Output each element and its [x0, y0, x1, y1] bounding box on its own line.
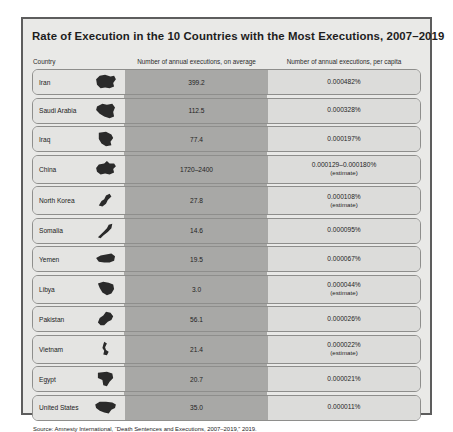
per-capita-estimate-note: (estimate): [330, 289, 358, 297]
cell-country: Libya: [33, 276, 125, 303]
cell-per-capita: 0.000011%: [268, 396, 420, 420]
table-row: Egypt20.70.000021%: [32, 366, 421, 392]
cell-per-capita: 0.000328%: [268, 99, 420, 123]
per-capita-value: 0.000067%: [327, 255, 360, 263]
average-executions-value: 112.5: [188, 107, 204, 114]
cell-average-executions: 112.5: [125, 99, 268, 123]
cell-average-executions: 77.4: [125, 127, 268, 151]
cell-country: North Korea: [33, 187, 125, 214]
table-row: Iraq77.40.000197%: [32, 126, 421, 152]
cell-average-executions: 399.2: [125, 70, 268, 94]
cell-per-capita: 0.000067%: [268, 247, 420, 271]
table-row: Iran399.20.000482%: [32, 69, 421, 95]
north-korea-map-icon: [93, 191, 119, 211]
average-executions-value: 21.4: [190, 346, 203, 353]
libya-map-icon: [93, 279, 119, 299]
per-capita-value: 0.000095%: [327, 226, 360, 234]
per-capita-value: 0.000011%: [328, 403, 361, 411]
column-header-row: Country Number of annual executions, on …: [32, 51, 421, 65]
country-name: Iran: [39, 79, 50, 86]
cell-average-executions: 35.0: [125, 396, 268, 420]
somalia-map-icon: [93, 221, 119, 241]
average-executions-value: 56.1: [190, 316, 203, 323]
cell-country: China: [33, 156, 125, 183]
average-executions-value: 20.7: [190, 376, 203, 383]
average-executions-value: 1720–2400: [180, 166, 213, 173]
cell-country: Somalia: [33, 219, 125, 243]
country-name: Iraq: [39, 136, 50, 143]
cell-average-executions: 19.5: [125, 247, 268, 271]
cell-average-executions: 20.7: [125, 367, 268, 391]
cell-per-capita: 0.000044%(estimate): [268, 276, 420, 303]
country-name: Yemen: [39, 256, 59, 263]
column-header-average: Number of annual executions, on average: [125, 58, 268, 65]
chart-card: Rate of Execution in the 10 Countries wi…: [21, 17, 432, 415]
cell-country: Iraq: [33, 127, 125, 151]
cell-average-executions: 3.0: [125, 276, 268, 303]
table-row: Pakistan56.10.000026%: [32, 306, 421, 332]
cell-country: Pakistan: [33, 307, 125, 331]
cell-country: Yemen: [33, 247, 125, 271]
country-name: China: [39, 166, 56, 173]
cell-average-executions: 56.1: [125, 307, 268, 331]
cell-average-executions: 21.4: [125, 336, 268, 363]
table-row: North Korea27.80.000108%(estimate): [32, 186, 421, 215]
country-name: Libya: [39, 286, 55, 293]
average-executions-value: 35.0: [190, 404, 203, 411]
egypt-map-icon: [93, 369, 119, 389]
united-states-map-icon: [93, 398, 119, 418]
cell-per-capita: 0.000197%: [268, 127, 420, 151]
country-name: North Korea: [39, 197, 75, 204]
per-capita-value: 0.000197%: [327, 135, 360, 143]
table-row: China1720–24000.000129–0.000180%(estimat…: [32, 155, 421, 184]
average-executions-value: 27.8: [190, 197, 203, 204]
pakistan-map-icon: [93, 309, 119, 329]
cell-per-capita: 0.000129–0.000180%(estimate): [268, 156, 420, 183]
cell-country: United States: [33, 396, 125, 420]
column-header-per-capita: Number of annual executions, per capita: [268, 58, 420, 65]
per-capita-value: 0.000482%: [327, 78, 360, 86]
table-row: Yemen19.50.000067%: [32, 246, 421, 272]
china-map-icon: [93, 159, 119, 179]
average-executions-value: 19.5: [190, 256, 203, 263]
iraq-map-icon: [93, 129, 119, 149]
per-capita-estimate-note: (estimate): [330, 349, 358, 357]
table-row: Saudi Arabia112.50.000328%: [32, 98, 421, 124]
page-title: Rate of Execution in the 10 Countries wi…: [32, 30, 421, 42]
average-executions-value: 14.6: [190, 227, 203, 234]
column-header-country: Country: [33, 58, 125, 65]
per-capita-value: 0.000129–0.000180%: [312, 161, 377, 169]
country-name: Saudi Arabia: [39, 107, 76, 114]
cell-per-capita: 0.000108%(estimate): [268, 187, 420, 214]
cell-per-capita: 0.000021%: [268, 367, 420, 391]
iran-map-icon: [93, 72, 119, 92]
per-capita-value: 0.000044%: [327, 281, 360, 289]
cell-country: Vietnam: [33, 336, 125, 363]
cell-country: Saudi Arabia: [33, 99, 125, 123]
table-row: Vietnam21.40.000022%(estimate): [32, 335, 421, 364]
per-capita-value: 0.000108%: [327, 193, 360, 201]
country-name: Egypt: [39, 376, 56, 383]
country-name: Somalia: [39, 227, 63, 234]
per-capita-value: 0.000022%: [327, 341, 360, 349]
country-name: Pakistan: [39, 316, 64, 323]
average-executions-value: 77.4: [190, 136, 203, 143]
cell-average-executions: 14.6: [125, 219, 268, 243]
country-name: Vietnam: [39, 346, 63, 353]
per-capita-value: 0.000328%: [327, 106, 360, 114]
cell-per-capita: 0.000026%: [268, 307, 420, 331]
cell-per-capita: 0.000022%(estimate): [268, 336, 420, 363]
per-capita-value: 0.000026%: [327, 315, 360, 323]
source-note: Source: Amnesty International, “Death Se…: [32, 426, 421, 432]
cell-average-executions: 1720–2400: [125, 156, 268, 183]
average-executions-value: 399.2: [188, 79, 205, 86]
country-name: United States: [39, 404, 79, 411]
average-executions-value: 3.0: [192, 286, 201, 293]
table-body: Iran399.20.000482%Saudi Arabia112.50.000…: [32, 69, 421, 421]
per-capita-estimate-note: (estimate): [330, 201, 358, 209]
table-row: Somalia14.60.000095%: [32, 218, 421, 244]
page: Rate of Execution in the 10 Countries wi…: [0, 0, 453, 432]
per-capita-value: 0.000021%: [327, 375, 360, 383]
saudi-arabia-map-icon: [93, 101, 119, 121]
per-capita-estimate-note: (estimate): [330, 169, 358, 177]
